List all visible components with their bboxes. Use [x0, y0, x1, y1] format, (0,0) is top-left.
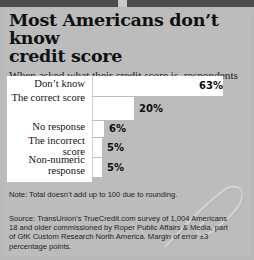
chart-source: Source: TransUnion’s TrueCredit.com surv…: [9, 214, 232, 251]
bar-category-label: Non-numeric response: [7, 154, 85, 177]
page-title-line2: credit score: [9, 48, 241, 66]
bar-axis-divider: [92, 138, 93, 157]
bar-category-label: Don’t know: [7, 78, 85, 89]
top-rule-notch: [118, 0, 127, 7]
chart-note: Note: Total doesn’t add up to 100 due to…: [9, 190, 224, 199]
bar: [92, 121, 104, 137]
bar-value-label: 63%: [199, 80, 223, 91]
bar-category-label: The correct score: [7, 92, 85, 103]
bar: [92, 138, 102, 157]
infographic-card: Most Americans don’t know credit score W…: [0, 0, 254, 260]
bar: [92, 97, 134, 120]
page-title: Most Americans don’t know credit score: [9, 12, 241, 66]
bar-category-label: No response: [7, 121, 85, 132]
bar-value-label: 5%: [107, 162, 124, 173]
bar-axis-divider: [92, 121, 93, 137]
bar-rows: Don’t know63%The correct score20%No resp…: [7, 76, 247, 182]
bar-axis-divider: [92, 97, 93, 120]
bar: [92, 158, 102, 177]
bar-value-label: 5%: [107, 142, 124, 153]
bar-axis-divider: [92, 158, 93, 177]
bar-chart: Don’t know63%The correct score20%No resp…: [7, 76, 247, 182]
bar-axis-divider: [92, 76, 93, 96]
bar-value-label: 20%: [139, 103, 163, 114]
top-rule: [0, 0, 254, 7]
bar-value-label: 6%: [109, 123, 126, 134]
page-title-line1: Most Americans don’t know: [9, 10, 219, 48]
